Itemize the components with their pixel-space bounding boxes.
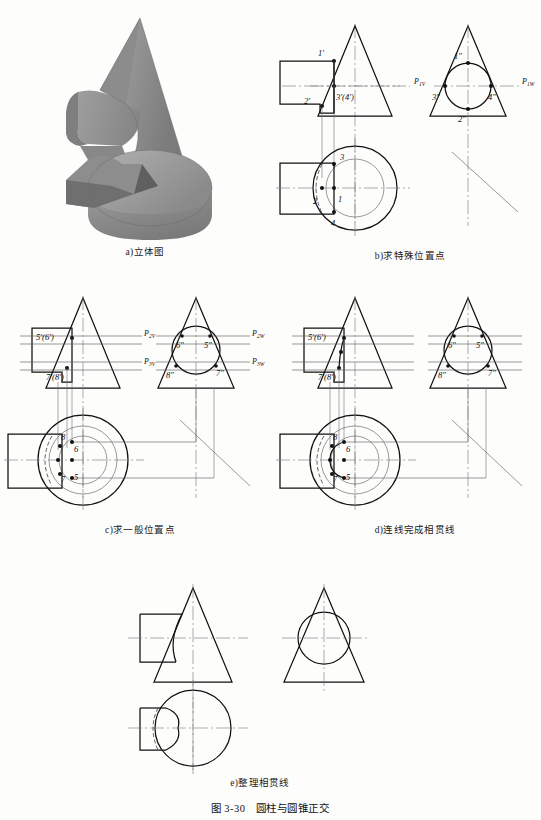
side-view-b (430, 24, 520, 226)
hidden-arc-top (317, 436, 324, 486)
point-8-side (446, 364, 450, 368)
panel-e-drawing (120, 580, 420, 775)
label-plane-p2w: P2W (251, 329, 265, 339)
point-1-side (466, 61, 470, 65)
point-2-top (320, 186, 324, 190)
label-point-7-top: 7 (61, 474, 66, 484)
label-plane-p1w: P1W (521, 77, 535, 87)
point-5-side (480, 334, 484, 338)
panel-d-connect-curve: 5'(6') 7'(8') 8 6 7 5 5" 6" 7" 8" (282, 290, 537, 512)
panel-b-special-points: 1' 2' 3'(4') 3 1 2 4 1" 2" 3" 4" P1V P1W (282, 18, 537, 240)
panel-c-drawing: 5'(6') 7'(8') 8 6 7 5 5" 6" 7" 8" P2V P3… (10, 290, 265, 512)
point-3-side (443, 84, 447, 88)
panel-b-caption: b)求特殊位置点 (355, 248, 465, 262)
label-point-5-side: 5" (476, 340, 484, 350)
side-view-d (428, 296, 522, 498)
label-point-1-side: 1" (454, 51, 462, 61)
figure-caption: 图 3-30 圆柱与圆锥正交 (170, 800, 370, 815)
label-point-1-top: 1 (338, 194, 342, 204)
point-mid-top (328, 458, 332, 462)
point-3-top (332, 162, 336, 166)
side-view-c (156, 296, 250, 498)
label-point-2-side: 2" (458, 114, 466, 124)
label-point-5-top: 5 (74, 472, 78, 482)
label-point-78-front: 7'(8') (46, 372, 64, 382)
label-plane-p3w: P3W (251, 357, 265, 367)
panel-a-pictorial (30, 8, 260, 240)
label-point-4-top: 4 (331, 218, 336, 228)
point-mid-top (56, 458, 60, 462)
label-point-78-front: 7'(8') (318, 372, 336, 382)
label-point-5-side: 5" (204, 340, 212, 350)
panel-d-drawing: 5'(6') 7'(8') 8 6 7 5 5" 6" 7" 8" (282, 290, 537, 512)
lower-solid-cylinder-notched (66, 150, 212, 240)
panel-e-final-curve (120, 580, 420, 775)
hidden-arc-top (45, 436, 52, 486)
label-point-8-top: 8 (333, 432, 338, 442)
pictorial-drawing (30, 8, 260, 240)
panel-a-caption: a)立体图 (95, 244, 195, 258)
upper-solid-cone-with-cylinder (66, 18, 182, 167)
label-point-2-front: 2' (304, 96, 310, 106)
front-view-b (280, 24, 410, 226)
label-point-8-side: 8" (438, 370, 446, 380)
panel-c-general-points: 5'(6') 7'(8') 8 6 7 5 5" 6" 7" 8" P2V P3… (10, 290, 265, 512)
point-8-side (174, 364, 178, 368)
point-6-side (180, 334, 184, 338)
label-point-5-top: 5 (346, 472, 350, 482)
point-mid-front (339, 350, 343, 354)
intersection-curve-top (166, 708, 179, 750)
label-point-7-side: 7" (216, 368, 224, 378)
point-4-side (489, 84, 493, 88)
label-point-6-top: 6 (74, 444, 79, 454)
point-1-top (332, 186, 336, 190)
point-2-side (466, 107, 470, 111)
point-8-top (330, 444, 334, 448)
45-degree-miter-line (180, 420, 250, 486)
top-view-e (128, 680, 248, 774)
point-8-top (58, 444, 62, 448)
side-view-e (282, 584, 368, 692)
label-point-3-top: 3 (339, 152, 344, 162)
point-mid2-top (70, 458, 74, 462)
label-point-6-top: 6 (346, 444, 351, 454)
label-point-8-top: 8 (61, 432, 66, 442)
top-view-c (4, 408, 214, 510)
panel-b-drawing: 1' 2' 3'(4') 3 1 2 4 1" 2" 3" 4" P1V P1W (282, 18, 537, 240)
point-4-top (332, 210, 336, 214)
45-degree-miter-line (452, 152, 518, 212)
point-5-side (208, 334, 212, 338)
label-plane-p1v: P1V (413, 77, 426, 87)
point-mid2-top (342, 458, 346, 462)
label-point-1-front: 1' (318, 48, 324, 58)
label-point-4-side: 4" (488, 92, 496, 102)
panel-e-caption: e)整理相贯线 (205, 775, 315, 789)
label-point-56-front: 5'(6') (36, 332, 54, 342)
label-point-6-side: 6" (176, 340, 184, 350)
label-plane-p2v: P2V (143, 329, 156, 339)
label-point-8-side: 8" (166, 370, 174, 380)
panel-c-caption: c)求一般位置点 (85, 522, 195, 536)
panel-d-caption: d)连线完成相贯线 (355, 522, 475, 536)
label-plane-p3v: P3V (143, 357, 156, 367)
label-point-6-side: 6" (448, 340, 456, 350)
top-view-d (276, 408, 486, 510)
point-6-side (452, 334, 456, 338)
label-point-7-side: 7" (488, 368, 496, 378)
front-view-e (128, 584, 248, 770)
45-degree-miter-line (452, 420, 522, 486)
label-point-56-front: 5'(6') (308, 332, 326, 342)
label-point-3-side: 3" (431, 92, 440, 102)
label-point-34-front: 3'(4') (335, 92, 354, 102)
